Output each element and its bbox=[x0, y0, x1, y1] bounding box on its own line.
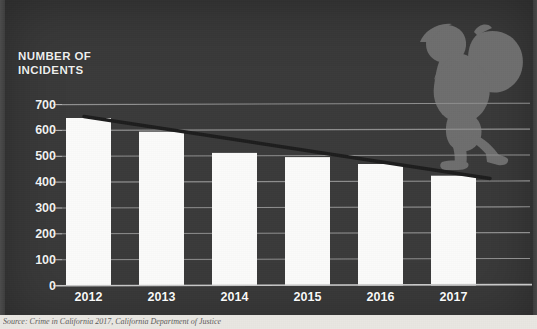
x-tick-2016: 2016 bbox=[341, 290, 421, 304]
x-tick-2015: 2015 bbox=[268, 290, 348, 304]
source-strip: Source: Crime in California 2017, Califo… bbox=[0, 315, 537, 329]
source-note: Source: Crime in California 2017, Califo… bbox=[3, 317, 221, 326]
x-axis-labels: 2012 2013 2014 2015 2016 2017 bbox=[0, 0, 537, 329]
x-tick-2012: 2012 bbox=[49, 290, 129, 304]
x-tick-2014: 2014 bbox=[195, 290, 275, 304]
chart-figure: NUMBER OF INCIDENTS 700 600 500 400 300 … bbox=[0, 0, 537, 329]
x-tick-2017: 2017 bbox=[414, 290, 494, 304]
x-tick-2013: 2013 bbox=[122, 290, 202, 304]
